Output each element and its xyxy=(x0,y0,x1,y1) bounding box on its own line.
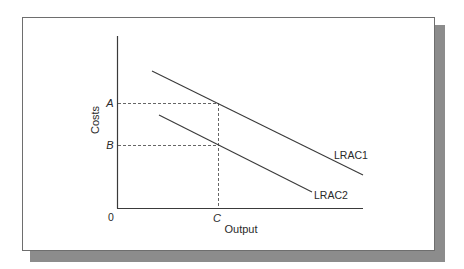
curves xyxy=(152,71,363,192)
lrac1-label: LRAC1 xyxy=(334,149,368,161)
tick-label-a: A xyxy=(105,97,113,109)
lrac1-curve xyxy=(152,71,363,175)
lrac2-label: LRAC2 xyxy=(314,189,348,201)
axes xyxy=(117,36,363,209)
tick-label-b: B xyxy=(106,139,113,151)
guide-lines xyxy=(118,103,219,208)
origin-label: 0 xyxy=(108,211,114,223)
tick-label-c: C xyxy=(213,212,221,224)
y-axis-label: Costs xyxy=(89,105,101,134)
lrac2-curve xyxy=(159,115,312,192)
cost-curve-diagram: Costs Output 0 A B C LRAC1 LRAC2 xyxy=(0,0,464,269)
x-axis-label: Output xyxy=(224,223,257,235)
